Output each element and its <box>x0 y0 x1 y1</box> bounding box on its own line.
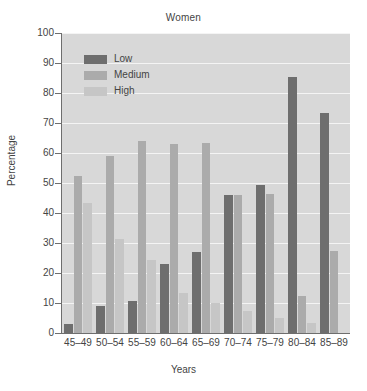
y-axis-spine <box>61 33 62 334</box>
x-tick-label: 60–64 <box>158 337 190 348</box>
legend-swatch-high-icon <box>84 87 107 96</box>
x-tick-label: 55–59 <box>126 337 158 348</box>
y-tick-mark <box>55 213 61 214</box>
bar-high-75-79 <box>275 318 284 333</box>
bar-medium-50-54 <box>106 156 115 333</box>
chart-figure: Women Percentage Years 01020304050607080… <box>0 0 367 391</box>
y-tick-label: 50 <box>2 177 54 188</box>
legend-label-medium: Medium <box>114 70 150 80</box>
bar-low-80-84 <box>288 77 297 334</box>
bar-medium-85-89 <box>330 251 339 334</box>
legend-item-high: High <box>84 83 194 99</box>
bar-low-55-59 <box>128 301 137 333</box>
y-tick-label: 70 <box>2 117 54 128</box>
y-tick-mark <box>55 33 61 34</box>
y-tick-label: 90 <box>2 57 54 68</box>
bar-high-80-84 <box>307 323 316 334</box>
legend-swatch-low-icon <box>84 55 107 64</box>
bar-low-45-49 <box>64 324 73 333</box>
gridline <box>62 123 350 124</box>
bar-high-70-74 <box>243 311 252 334</box>
y-tick-mark <box>55 93 61 94</box>
y-tick-label: 20 <box>2 267 54 278</box>
bar-medium-60-64 <box>170 144 179 333</box>
y-tick-label: 100 <box>2 27 54 38</box>
bar-medium-65-69 <box>202 143 211 333</box>
bar-high-55-59 <box>147 260 156 334</box>
bar-high-65-69 <box>211 303 220 333</box>
legend-item-medium: Medium <box>84 67 194 83</box>
x-axis-label: Years <box>0 364 367 375</box>
y-tick-mark <box>55 243 61 244</box>
bar-low-50-54 <box>96 306 105 333</box>
legend-swatch-medium-icon <box>84 71 107 80</box>
bar-medium-45-49 <box>74 176 83 334</box>
legend-item-low: Low <box>84 51 194 67</box>
bar-medium-70-74 <box>234 195 243 333</box>
y-axis-tick-labels: 0102030405060708090100 <box>0 33 54 333</box>
x-axis-spine <box>61 333 350 334</box>
x-tick-label: 45–49 <box>62 337 94 348</box>
y-tick-mark <box>55 273 61 274</box>
x-tick-label: 80–84 <box>286 337 318 348</box>
bar-medium-75-79 <box>266 194 275 333</box>
y-tick-mark <box>55 123 61 124</box>
y-tick-mark <box>55 183 61 184</box>
y-tick-mark <box>55 153 61 154</box>
y-tick-label: 60 <box>2 147 54 158</box>
bar-low-70-74 <box>224 195 233 333</box>
x-tick-label: 85–89 <box>318 337 350 348</box>
bar-high-45-49 <box>83 203 92 334</box>
y-tick-mark <box>55 63 61 64</box>
x-tick-label: 65–69 <box>190 337 222 348</box>
bar-medium-55-59 <box>138 141 147 333</box>
bar-low-75-79 <box>256 185 265 333</box>
x-axis-tick-labels: 45–4950–5455–5960–6465–6970–7475–7980–84… <box>62 337 350 353</box>
y-tick-label: 10 <box>2 297 54 308</box>
y-tick-label: 30 <box>2 237 54 248</box>
x-tick-label: 75–79 <box>254 337 286 348</box>
x-tick-label: 50–54 <box>94 337 126 348</box>
y-tick-label: 40 <box>2 207 54 218</box>
y-tick-mark <box>55 333 61 334</box>
y-tick-mark <box>55 303 61 304</box>
y-tick-label: 0 <box>2 327 54 338</box>
y-tick-label: 80 <box>2 87 54 98</box>
chart-title: Women <box>0 12 367 23</box>
bar-low-85-89 <box>320 113 329 334</box>
x-tick-label: 70–74 <box>222 337 254 348</box>
legend-label-low: Low <box>114 54 132 64</box>
gridline <box>62 33 350 34</box>
legend-label-high: High <box>114 86 135 96</box>
bar-low-65-69 <box>192 252 201 333</box>
bar-low-60-64 <box>160 264 169 333</box>
bar-high-60-64 <box>179 293 188 334</box>
chart-legend: Low Medium High <box>84 51 194 99</box>
bar-medium-80-84 <box>298 296 307 333</box>
bar-high-50-54 <box>115 239 124 334</box>
